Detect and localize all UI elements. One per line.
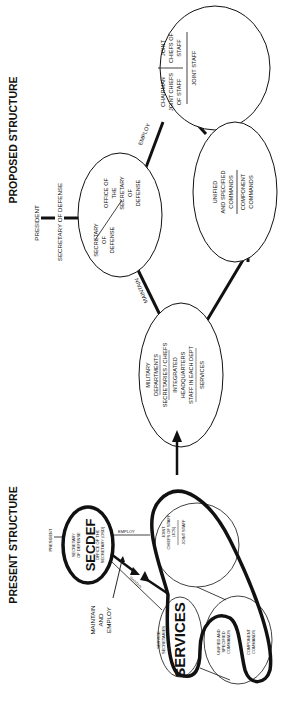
military-line-2: DEPARTMENTS xyxy=(153,354,159,396)
unified-ellipse xyxy=(193,122,277,262)
present-structure: PRESENT STRUCTURE PRESIDENT EMPLOY MAINT… xyxy=(7,486,272,684)
unified-top-1: UNIFIED xyxy=(212,181,218,203)
osd-left-3: DEFENSE xyxy=(109,227,115,254)
military-line-1: MILITARY xyxy=(145,362,151,388)
arrowhead-2 xyxy=(140,571,150,582)
callout-line-3: EMPLOY xyxy=(105,607,112,633)
military-line-4: INTEGRATED xyxy=(172,357,178,393)
unified-bottom-2: COMMANDS xyxy=(248,175,254,209)
callout-line-1: MAINTAIN xyxy=(89,605,96,634)
military-departments-node: MILITARY DEPARTMENTS SECRETARIES / CHIEF… xyxy=(139,303,223,447)
present-title: PRESENT STRUCTURE xyxy=(7,486,19,603)
callout-arrowhead xyxy=(119,556,125,562)
callout-pointer xyxy=(113,560,122,598)
proposed-structure: PROPOSED STRUCTURE PRESIDENT SECRETARY O… xyxy=(7,6,277,447)
present-services-small-2: SECRETARIES xyxy=(161,626,166,654)
secdef-small-2: OF DEFENSE xyxy=(76,532,81,558)
jcs-left-1: CHAIRMAN xyxy=(160,77,166,107)
jcs-right-1: JOINT xyxy=(160,39,166,56)
proposed-secdef-label: SECRETARY OF DEFENSE xyxy=(56,183,63,261)
present-unified-3: COMMANDS xyxy=(226,630,231,654)
present-component-2: COMMANDS xyxy=(251,630,256,654)
osd-ellipse xyxy=(78,153,162,277)
osd-node: SECRETARY OF DEFENSE OFFICE OF THE SECRE… xyxy=(78,153,162,277)
osd-right-5: DEFENSE xyxy=(135,180,141,207)
present-jcs-3: (JCS) xyxy=(171,526,176,537)
military-line-3: SECRETARIES / CHIEFS xyxy=(162,343,168,408)
secdef-small-4: SECRETARY (OSD) xyxy=(100,526,105,563)
proposed-president-label: PRESIDENT xyxy=(33,205,40,241)
present-joint-staff: JOINT STAFF xyxy=(181,519,186,545)
unified-commands-node: UNIFIED AND SPECIFIED COMMANDS COMPONENT… xyxy=(193,122,277,262)
services-big-label: SERVICES xyxy=(171,602,188,678)
jcs-right-2: CHIEFS OF xyxy=(168,33,174,63)
osd-right-2: THE xyxy=(111,187,117,198)
military-line-6: STAFF IN EACH DEPT xyxy=(188,345,194,404)
jcs-joint-staff: JOINT STAFF xyxy=(191,50,197,85)
jcs-right-3: STAFF xyxy=(176,39,182,57)
jcs-left-3: OF STAFF xyxy=(176,78,182,105)
osd-left-2: OF xyxy=(101,236,107,244)
jcs-node: CHAIRMAN JOINT CHIEFS OF STAFF JOINT CHI… xyxy=(158,6,270,130)
present-employ-label: EMPLOY xyxy=(118,529,135,534)
present-jcs-unified-line xyxy=(197,587,226,600)
proposed-title: PROPOSED STRUCTURE xyxy=(7,76,19,203)
present-services-unified-line xyxy=(200,668,230,680)
osd-left-1: SECRETARY xyxy=(93,223,99,257)
jcs-left-2: JOINT CHIEFS xyxy=(168,73,174,111)
org-structure-diagram: PROPOSED STRUCTURE PRESIDENT SECRETARY O… xyxy=(0,0,281,728)
present-secdef-node: SECRETARY OF DEFENSE SECDEF OFFICE OF TH… xyxy=(63,507,113,583)
unified-top-3: COMMANDS xyxy=(228,175,234,209)
osd-right-4: OF xyxy=(127,189,133,197)
unified-top-2: AND SPECIFIED xyxy=(220,171,226,214)
present-president-label: PRESIDENT xyxy=(48,528,53,551)
osd-right-3: SECRETARY xyxy=(119,176,125,210)
military-line-7: SERVICES xyxy=(199,361,205,389)
callout-line-2: AND xyxy=(97,613,104,627)
employ-label: EMPLOY xyxy=(137,122,151,146)
military-line-5: HEADQUARTERS xyxy=(180,351,186,398)
unified-military-edge xyxy=(206,255,248,322)
osd-right-1: OFFICE OF xyxy=(103,178,109,208)
unified-bottom-1: COMPONENT xyxy=(240,173,246,210)
present-maintain-label: MAINTAIN xyxy=(129,576,143,590)
